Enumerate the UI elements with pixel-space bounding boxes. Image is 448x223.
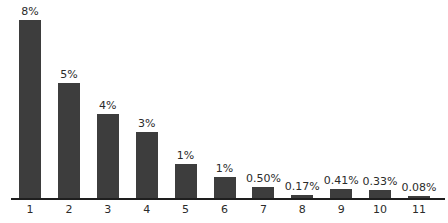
bar-5: [175, 164, 197, 198]
bar-9: [330, 189, 352, 198]
value-label: 4%: [83, 99, 133, 112]
x-tick-label: 3: [93, 203, 123, 216]
bar-4: [136, 132, 158, 198]
x-tick-label: 4: [132, 203, 162, 216]
x-tick-label: 5: [171, 203, 201, 216]
bar-1: [19, 20, 41, 198]
bar-10: [369, 190, 391, 198]
bar-2: [58, 83, 80, 198]
bar-6: [214, 177, 236, 198]
bar-chart: 8%15%24%33%41%51%60.50%70.17%80.41%90.33…: [0, 0, 448, 223]
bar-8: [291, 195, 313, 198]
value-label: 8%: [5, 5, 55, 18]
value-label: 0.08%: [394, 181, 444, 194]
x-tick-label: 8: [287, 203, 317, 216]
x-tick-label: 2: [54, 203, 84, 216]
x-tick-label: 1: [15, 203, 45, 216]
x-axis-line: [11, 198, 445, 200]
value-label: 1%: [161, 149, 211, 162]
bar-7: [252, 187, 274, 198]
value-label: 3%: [122, 117, 172, 130]
x-tick-label: 9: [326, 203, 356, 216]
x-tick-label: 7: [248, 203, 278, 216]
x-tick-label: 6: [210, 203, 240, 216]
value-label: 5%: [44, 68, 94, 81]
x-tick-label: 10: [365, 203, 395, 216]
bar-11: [408, 196, 430, 198]
bar-3: [97, 114, 119, 198]
x-tick-label: 11: [404, 203, 434, 216]
